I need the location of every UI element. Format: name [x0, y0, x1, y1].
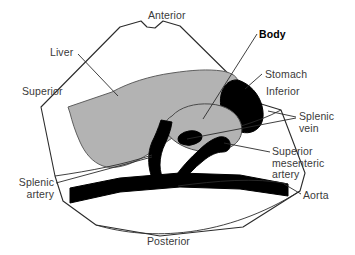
label-anterior: Anterior: [148, 10, 186, 22]
anatomy-diagram: Anterior Superior Inferior Posterior Liv…: [0, 0, 355, 255]
label-splenic-vein: Splenic vein: [299, 111, 334, 134]
label-posterior: Posterior: [147, 236, 190, 248]
label-liver: Liver: [50, 47, 73, 59]
label-superior: Superior: [22, 86, 63, 98]
label-superior-mesenteric-artery: Superior mesenteric artery: [272, 146, 324, 181]
stomach-leader-line: [245, 74, 262, 89]
label-aorta: Aorta: [303, 190, 329, 202]
label-inferior: Inferior: [266, 86, 299, 98]
label-stomach: Stomach: [265, 69, 307, 81]
label-body: Body: [259, 29, 286, 41]
label-splenic-artery: Splenic artery: [0, 177, 54, 200]
